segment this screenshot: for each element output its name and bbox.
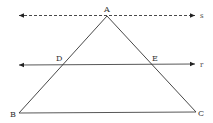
line-r-label: r	[200, 61, 204, 69]
line-s-label: s	[200, 12, 204, 20]
segment-bc	[19, 112, 196, 113]
geometry-diagram: s r A D E B C	[0, 0, 213, 123]
point-b-label: B	[10, 110, 16, 119]
point-e-label: E	[152, 54, 158, 63]
point-c-label: C	[198, 109, 204, 118]
line-r	[19, 64, 195, 65]
point-a-label: A	[103, 5, 110, 14]
point-d-label: D	[56, 54, 62, 63]
